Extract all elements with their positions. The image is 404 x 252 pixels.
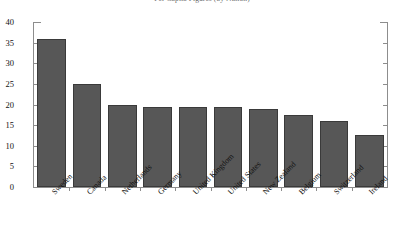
bar — [108, 105, 137, 188]
y-axis-right-line — [387, 22, 388, 188]
chart-title: Per Capita Figures (by Nation) — [0, 0, 404, 3]
y-axis-label-0: 0 — [0, 183, 14, 192]
bar — [37, 39, 66, 188]
y-axis-label-25: 25 — [0, 80, 14, 89]
plot-area: 0510152025303540 — [33, 22, 388, 188]
bar — [73, 84, 102, 187]
y-axis-label-35: 35 — [0, 39, 14, 48]
y-axis-label-15: 15 — [0, 121, 14, 130]
y-axis-label-10: 10 — [0, 142, 14, 151]
y-tick-right-0 — [383, 187, 387, 188]
bar — [284, 115, 313, 187]
x-axis-category-labels: SwedenCanadaNetherlandsGermanyUnited Kin… — [33, 190, 393, 252]
bar-series — [34, 22, 387, 187]
y-axis-label-30: 30 — [0, 59, 14, 68]
y-tick-0 — [34, 187, 38, 188]
y-axis-label-20: 20 — [0, 101, 14, 110]
y-axis-label-40: 40 — [0, 18, 14, 27]
y-axis-label-5: 5 — [0, 162, 14, 171]
